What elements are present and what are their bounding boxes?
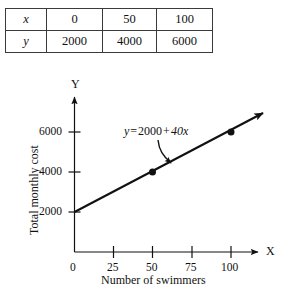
y-axis-title: Total monthly cost: [28, 145, 40, 235]
x-tick-label-25: 25: [107, 262, 119, 274]
table-cell-x-0: 0: [47, 9, 103, 31]
x-axis-letter: X: [266, 245, 275, 257]
callout-arrow: [158, 140, 171, 163]
y-tick-label-6000: 6000: [39, 126, 62, 138]
x-tick-label-0: 0: [70, 262, 76, 274]
equation-lhs: y: [124, 124, 129, 138]
table-cell-y-2: 6000: [157, 31, 213, 53]
table-cell-x-1: 50: [103, 9, 157, 31]
table-cell-x-2: 100: [157, 9, 213, 31]
x-axis-title: Number of swimmers: [101, 274, 206, 286]
equation-equals: =: [129, 124, 138, 138]
x-tick-label-100: 100: [221, 262, 238, 274]
equation-intercept: 2000: [138, 124, 162, 138]
y-tick-label-4000: 4000: [39, 166, 62, 178]
equation-annotation: y=2000+40x: [124, 125, 188, 137]
table-row-header-x: x: [6, 9, 47, 31]
table-cell-y-1: 4000: [103, 31, 157, 53]
table-row: y 2000 4000 6000: [6, 31, 213, 53]
figure-container: x 0 50 100 y 2000 4000 6000: [0, 0, 285, 291]
x-tick-label-75: 75: [185, 262, 197, 274]
data-point-50-4000: [149, 169, 156, 176]
y-tick-label-2000: 2000: [39, 206, 62, 218]
data-line: [75, 113, 264, 212]
table-cell-y-0: 2000: [47, 31, 103, 53]
data-point-100-6000: [228, 129, 235, 136]
x-tick-label-50: 50: [146, 262, 158, 274]
equation-plus: +: [162, 124, 171, 138]
table-row: x 0 50 100: [6, 9, 213, 31]
equation-slope-term: 40x: [171, 124, 188, 138]
data-table: x 0 50 100 y 2000 4000 6000: [5, 8, 213, 53]
y-axis-letter: Y: [71, 78, 80, 90]
table-row-header-y: y: [6, 31, 47, 53]
